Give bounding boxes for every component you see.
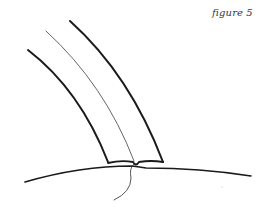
figure-caption: figure 5 xyxy=(212,7,253,18)
thread xyxy=(114,164,134,200)
strip-center-line xyxy=(46,31,134,161)
surface-curve xyxy=(25,166,251,182)
strip-left-edge xyxy=(28,50,108,162)
strip-right-edge xyxy=(70,21,163,162)
line-drawing xyxy=(0,0,277,216)
strip-base xyxy=(108,161,163,165)
ink-speck xyxy=(221,186,222,187)
